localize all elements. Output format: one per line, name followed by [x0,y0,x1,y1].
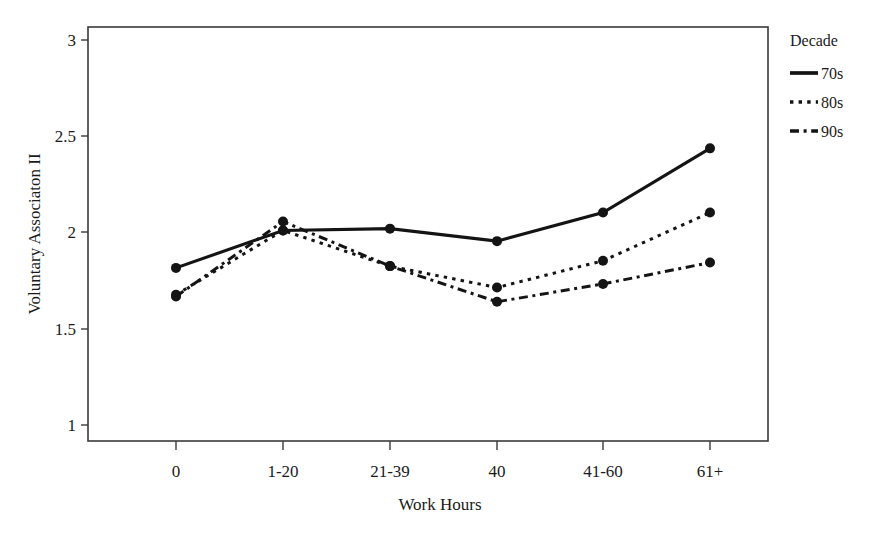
data-point [598,279,608,289]
x-axis-title: Work Hours [398,495,481,514]
legend-items: 70s80s90s [790,65,843,140]
data-point [492,283,502,293]
data-point [598,208,608,218]
data-point [171,263,181,273]
data-point [385,261,395,271]
y-axis-tick-labels: 3 2.5 2 1.5 1 [55,31,76,435]
y-tick-label: 1 [68,416,77,435]
y-tick-label: 1.5 [55,320,76,339]
x-tick-label: 21-39 [370,462,410,481]
y-tick-label: 2 [68,223,77,242]
x-tick-label: 40 [489,462,506,481]
data-point [385,224,395,234]
data-point [171,291,181,301]
data-point [598,256,608,266]
data-series-layer [171,143,715,306]
legend-label-80s: 80s [821,94,843,111]
x-axis-tick-labels: 0 1-20 21-39 40 41-60 61+ [172,462,724,481]
x-axis-ticks [176,441,710,450]
data-point [705,208,715,218]
y-tick-label: 2.5 [55,127,76,146]
data-point [705,258,715,268]
data-point [492,297,502,307]
legend-label-70s: 70s [821,65,843,82]
x-tick-label: 1-20 [267,462,298,481]
data-point [278,217,288,227]
x-tick-label: 0 [172,462,181,481]
legend-title: Decade [790,32,838,49]
legend: Decade 70s80s90s [790,32,843,140]
data-point [705,143,715,153]
x-tick-label: 61+ [697,462,724,481]
legend-label-90s: 90s [821,123,843,140]
chart-canvas: 3 2.5 2 1.5 1 Voluntary Associaton II 0 … [0,0,877,533]
y-axis-title: Voluntary Associaton II [25,153,44,315]
data-point [278,225,288,235]
x-tick-label: 41-60 [583,462,623,481]
y-axis-ticks [81,40,88,425]
series-line-70s [176,148,710,268]
chart-figure: 3 2.5 2 1.5 1 Voluntary Associaton II 0 … [0,0,877,533]
y-tick-label: 3 [68,31,77,50]
data-point [492,236,502,246]
